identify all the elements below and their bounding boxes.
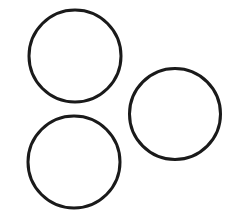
circle-right: [130, 69, 221, 160]
circle-top-left: [29, 10, 121, 102]
diagram-canvas: [0, 0, 235, 217]
circle-bottom-left: [28, 116, 120, 208]
